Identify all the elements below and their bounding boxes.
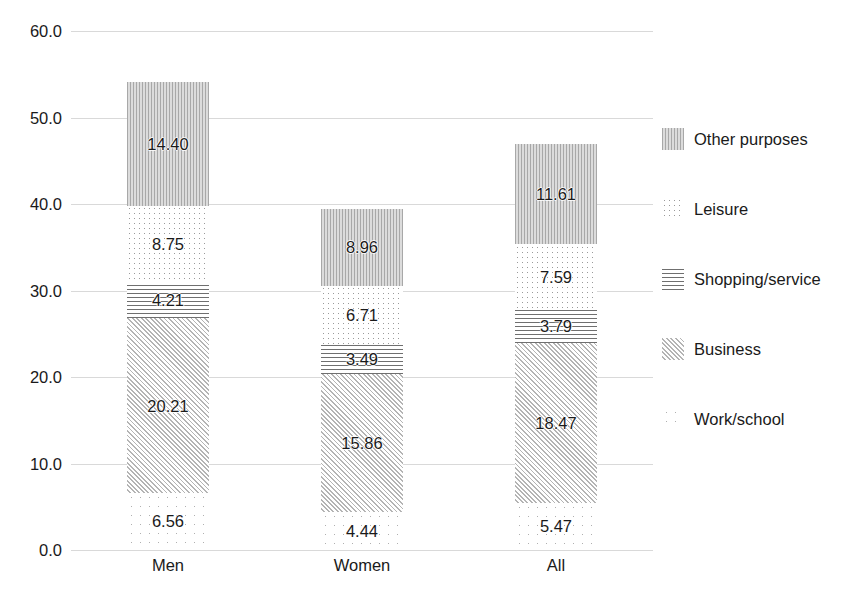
bar-segment[interactable]: 15.86 [321, 374, 403, 511]
bar-segment[interactable]: 8.75 [127, 206, 209, 282]
bar-segment[interactable]: 5.47 [515, 503, 597, 550]
bar-segment-value-label: 6.71 [346, 307, 378, 324]
bar-segment[interactable]: 4.44 [321, 512, 403, 550]
bar-segment[interactable]: 3.49 [321, 344, 403, 374]
bar-segment-value-label: 7.59 [540, 269, 572, 286]
bar-segment-value-label: 11.61 [536, 186, 576, 203]
bar-segment[interactable]: 14.40 [127, 82, 209, 207]
y-axis-tick-label: 10.0 [30, 454, 62, 473]
bar-segment[interactable]: 18.47 [515, 343, 597, 503]
y-axis-tick-label: 40.0 [30, 195, 62, 214]
bar-group-women[interactable]: 4.4415.863.496.718.96 [321, 31, 403, 550]
bar-segment-value-label: 8.96 [346, 239, 378, 256]
bar-segment[interactable]: 11.61 [515, 144, 597, 244]
bar-segment-value-label: 5.47 [540, 518, 572, 535]
legend-label: Leisure [694, 201, 748, 218]
legend-swatch-icon [662, 408, 684, 430]
legend-label: Shopping/service [694, 271, 821, 288]
bar-group-all[interactable]: 5.4718.473.797.5911.61 [515, 31, 597, 550]
bar-segment-value-label: 6.56 [152, 513, 184, 530]
bar-segment-value-label: 4.21 [152, 292, 184, 309]
bar-segment[interactable]: 7.59 [515, 245, 597, 311]
bar-segment-value-label: 18.47 [535, 415, 576, 432]
y-axis-tick-label: 60.0 [30, 22, 62, 41]
x-axis-tick-label: Women [334, 556, 391, 575]
bar-segment[interactable]: 8.96 [321, 209, 403, 287]
legend-item-leisure[interactable]: Leisure [662, 198, 748, 220]
legend-item-shopping-service[interactable]: Shopping/service [662, 268, 821, 290]
legend-swatch-icon [662, 268, 684, 290]
y-axis-tick-label: 20.0 [30, 368, 62, 387]
bar-segment-value-label: 8.75 [152, 236, 184, 253]
y-axis-tick-label: 30.0 [30, 281, 62, 300]
x-axis-tick-label: Men [152, 556, 184, 575]
legend-label: Business [694, 341, 761, 358]
legend-item-work-school[interactable]: Work/school [662, 408, 784, 430]
bar-segment[interactable]: 3.79 [515, 310, 597, 343]
bar-group-men[interactable]: 6.5620.214.218.7514.40 [127, 31, 209, 550]
x-axis-tick-label: All [547, 556, 565, 575]
gridline [71, 550, 653, 551]
bar-segment-value-label: 3.49 [346, 351, 378, 368]
bar-segment-value-label: 4.44 [346, 523, 378, 540]
bar-segment[interactable]: 6.56 [127, 493, 209, 550]
y-axis-tick-label: 50.0 [30, 108, 62, 127]
legend-label: Other purposes [694, 131, 808, 148]
legend-item-other-purposes[interactable]: Other purposes [662, 128, 808, 150]
stacked-bar-chart: 0.010.020.030.040.050.060.0 6.5620.214.2… [0, 0, 847, 606]
bar-segment-value-label: 20.21 [147, 398, 188, 415]
bar-segment[interactable]: 6.71 [321, 286, 403, 344]
legend-item-business[interactable]: Business [662, 338, 761, 360]
x-axis: MenWomenAll [71, 556, 653, 586]
bar-segment[interactable]: 20.21 [127, 318, 209, 493]
bar-segment-value-label: 14.40 [147, 136, 188, 153]
legend-swatch-icon [662, 198, 684, 220]
y-axis-tick-label: 0.0 [39, 541, 62, 560]
bar-segment[interactable]: 4.21 [127, 282, 209, 318]
legend-label: Work/school [694, 411, 784, 428]
legend-swatch-icon [662, 128, 684, 150]
bar-segment-value-label: 3.79 [540, 318, 572, 335]
plot-area: 6.5620.214.218.7514.404.4415.863.496.718… [71, 31, 653, 550]
bar-segment-value-label: 15.86 [341, 435, 382, 452]
y-axis: 0.010.020.030.040.050.060.0 [0, 31, 62, 550]
legend-swatch-icon [662, 338, 684, 360]
